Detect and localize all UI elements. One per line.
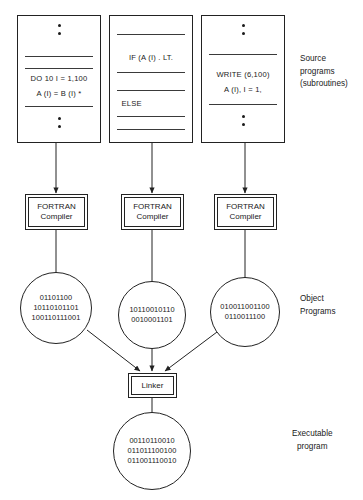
source-program-2-line-1: IF (A (I) . LT.	[110, 53, 192, 62]
compiler-2-line-2: Compiler	[136, 212, 168, 222]
caption-source-line-1: Source	[300, 53, 348, 66]
rule-line	[25, 56, 94, 57]
caption-object-line-2: Programs	[300, 306, 336, 319]
linker-label: Linker	[142, 381, 164, 391]
compiler-3-line-2: Compiler	[229, 212, 261, 222]
caption-source-line-3: (subroutines)	[300, 78, 348, 91]
object-program-circle-3[interactable]: 010011001100 0110011100	[210, 277, 280, 347]
executable-program-circle[interactable]: 00110110010 011011100100 011001110010	[113, 412, 191, 490]
object-2-bits-line-1: 10110010110	[129, 305, 174, 315]
caption-executable-line-1: Executable	[292, 428, 333, 441]
source-program-3-line-1: WRITE (6,100)	[202, 70, 284, 79]
source-program-2-line-2: ELSE	[121, 99, 192, 108]
vertical-ellipsis-top-icon	[202, 24, 284, 40]
compiler-1-line-2: Compiler	[40, 212, 72, 222]
source-program-box-2[interactable]: IF (A (I) . LT. ELSE	[109, 15, 193, 143]
fortran-compiler-box-3[interactable]: FORTRAN Compiler	[214, 194, 277, 230]
source-program-2-content: IF (A (I) . LT. ELSE	[110, 16, 192, 142]
executable-bits-line-2: 011011100100	[128, 446, 177, 456]
rule-line	[117, 34, 186, 35]
caption-source-programs: Source programs (subroutines)	[300, 53, 348, 91]
vertical-ellipsis-top-icon	[18, 24, 100, 40]
source-program-3-content: WRITE (6,100) A (I), I = 1,	[202, 16, 284, 142]
object-3-bits-line-2: 0110011100	[225, 312, 265, 322]
fortran-compiler-box-1[interactable]: FORTRAN Compiler	[25, 194, 88, 230]
object-1-bits-line-3: 100110111001	[32, 313, 81, 323]
fortran-compiler-1-content: FORTRAN Compiler	[28, 197, 85, 227]
source-program-1-line-1: DO 10 I = 1,100	[18, 74, 100, 83]
rule-line	[25, 68, 94, 69]
source-program-3-line-2: A (I), I = 1,	[202, 85, 284, 94]
object-1-bits-line-1: 01101100	[40, 293, 73, 303]
linker-content: Linker	[131, 376, 174, 395]
diagram-canvas: DO 10 I = 1,100 A (I) = B (I) * IF (A (I…	[0, 0, 363, 500]
rule-line	[117, 90, 186, 91]
rule-line	[117, 129, 186, 130]
fortran-compiler-box-2[interactable]: FORTRAN Compiler	[121, 194, 184, 230]
compiler-1-line-1: FORTRAN	[37, 202, 76, 212]
object-1-bits-line-2: 10110101101	[33, 303, 78, 313]
source-program-box-3[interactable]: WRITE (6,100) A (I), I = 1,	[201, 15, 285, 143]
caption-executable-program: Executable program	[292, 428, 333, 453]
linker-box[interactable]: Linker	[128, 373, 177, 398]
executable-bits-line-3: 011001110010	[128, 456, 177, 466]
compiler-3-line-1: FORTRAN	[226, 202, 265, 212]
rule-line	[209, 104, 278, 105]
object-program-circle-2[interactable]: 10110010110 0010001101	[118, 281, 186, 349]
caption-object-line-1: Object	[300, 293, 336, 306]
executable-bits-line-1: 00110110010	[129, 436, 174, 446]
vertical-ellipsis-bottom-icon	[18, 117, 100, 133]
caption-executable-line-2: program	[292, 441, 333, 454]
caption-source-line-2: programs	[300, 66, 348, 79]
rule-line	[209, 54, 278, 55]
compiler-2-line-1: FORTRAN	[133, 202, 172, 212]
source-program-1-content: DO 10 I = 1,100 A (I) = B (I) *	[18, 16, 100, 142]
object-program-circle-1[interactable]: 01101100 10110101101 100110111001	[20, 272, 92, 344]
caption-object-programs: Object Programs	[300, 293, 336, 318]
source-program-1-line-2: A (I) = B (I) *	[18, 89, 100, 98]
fortran-compiler-2-content: FORTRAN Compiler	[124, 197, 181, 227]
object-3-bits-line-1: 010011001100	[220, 302, 269, 312]
object-2-bits-line-2: 0010001101	[131, 315, 173, 325]
fortran-compiler-3-content: FORTRAN Compiler	[217, 197, 274, 227]
rule-line	[117, 72, 186, 73]
source-program-box-1[interactable]: DO 10 I = 1,100 A (I) = B (I) *	[17, 15, 101, 143]
vertical-ellipsis-bottom-icon	[202, 115, 284, 131]
rule-line	[25, 106, 94, 107]
rule-line	[117, 116, 186, 117]
